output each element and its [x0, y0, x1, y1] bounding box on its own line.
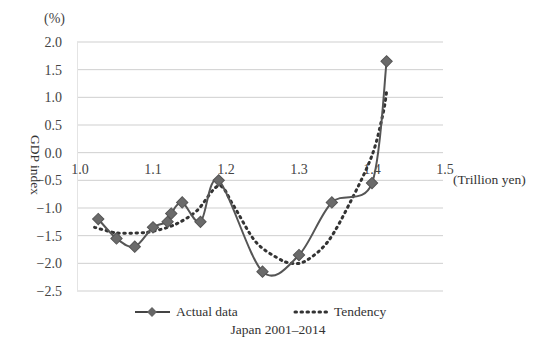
y-tick-label: −2.5: [37, 284, 62, 299]
gridlines: [77, 42, 443, 291]
diamond-marker-icon: [147, 307, 157, 317]
data-point-marker: [195, 216, 206, 227]
y-tick-label: 0.5: [45, 118, 63, 133]
chart-caption: Japan 2001–2014: [231, 322, 326, 337]
legend-label-tendency: Tendency: [334, 304, 387, 319]
line-chart: 2.01.51.00.50.0−0.5−1.0−1.5−2.0−2.5 1.01…: [0, 0, 556, 350]
data-point-marker: [366, 177, 377, 188]
legend-label-actual: Actual data: [176, 304, 238, 319]
x-tick-label: 1.2: [217, 162, 235, 177]
actual-data-markers: [93, 56, 393, 278]
legend: Actual data Tendency: [135, 304, 387, 319]
x-axis-label: (Trillion yen): [453, 172, 526, 187]
y-tick-label: −1.5: [37, 229, 62, 244]
y-tick-label: 1.5: [45, 63, 63, 78]
x-tick-label: 1.3: [290, 162, 308, 177]
legend-item-tendency: Tendency: [295, 304, 387, 319]
y-tick-label: −1.0: [37, 201, 62, 216]
y-axis-label: GDP index: [28, 135, 43, 195]
y-tick-label: 2.0: [45, 35, 63, 50]
legend-item-actual: Actual data: [135, 304, 238, 319]
y-tick-label: −2.0: [37, 256, 62, 271]
x-tick-label: 1.5: [436, 162, 454, 177]
y-tick-label: 1.0: [45, 90, 63, 105]
actual-data-series-line: [98, 61, 386, 275]
y-unit-label: (%): [44, 11, 65, 27]
tendency-series-line: [95, 92, 387, 264]
x-tick-label: 1.0: [71, 162, 89, 177]
x-tick-label: 1.1: [144, 162, 162, 177]
x-axis-ticks: 1.01.11.21.31.41.5: [71, 162, 454, 177]
data-point-marker: [381, 56, 392, 67]
y-tick-label: 0.0: [45, 146, 63, 161]
